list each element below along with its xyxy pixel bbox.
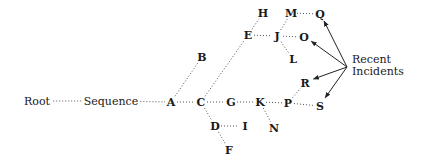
edge-m-q	[297, 13, 314, 14]
arrow-to-s	[325, 67, 347, 98]
node-k: K	[255, 96, 265, 109]
node-s: S	[316, 100, 324, 113]
edge-j-m	[281, 19, 288, 30]
node-m: M	[285, 7, 297, 20]
node-l: L	[289, 53, 297, 66]
edge-e-h	[252, 19, 259, 29]
arrow-to-r	[313, 67, 347, 79]
node-b: B	[197, 51, 206, 64]
edge-d-f	[219, 132, 226, 144]
node-o: O	[299, 31, 309, 44]
edge-j-o	[283, 36, 298, 37]
node-a: A	[166, 96, 176, 109]
node-i: I	[242, 120, 247, 133]
node-j: J	[273, 30, 279, 43]
node-sequence: Sequence	[84, 95, 138, 108]
edge-p-s	[294, 104, 314, 106]
incident-tree-diagram: RootSequenceABCDEFGHIJKLMNOPQRS Recent I…	[0, 0, 428, 163]
node-q: Q	[315, 8, 325, 21]
node-e: E	[244, 29, 252, 42]
edge-k-p	[266, 102, 282, 103]
edge-c-d	[205, 108, 212, 120]
node-g: G	[226, 96, 235, 109]
tree-nodes: RootSequenceABCDEFGHIJKLMNOPQRS	[24, 7, 325, 157]
edge-j-l	[281, 42, 289, 54]
node-d: D	[210, 120, 220, 133]
node-root: Root	[24, 95, 51, 108]
node-h: H	[258, 7, 268, 20]
recent-incident-arrows	[311, 21, 347, 98]
node-c: C	[197, 96, 206, 109]
arrow-to-q	[324, 21, 347, 67]
node-r: R	[300, 77, 310, 90]
node-f: F	[225, 144, 233, 157]
diagram-svg: RootSequenceABCDEFGHIJKLMNOPQRS Recent I…	[0, 0, 428, 163]
edge-a-b	[175, 63, 198, 96]
node-p: P	[284, 97, 292, 110]
edge-p-r	[293, 88, 301, 97]
edge-e-j	[254, 35, 271, 36]
node-n: N	[269, 122, 279, 135]
arrow-to-o	[311, 41, 347, 67]
recent-label-line2: Incidents	[352, 65, 404, 78]
edge-k-n	[263, 108, 270, 122]
edge-c-e	[205, 41, 244, 97]
